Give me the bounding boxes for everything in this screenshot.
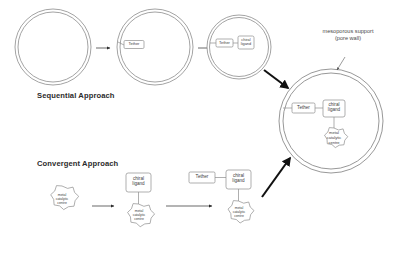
sequential-approach-heading: Sequential Approach [37,92,115,100]
product-ligand-label: chiral ligand [323,102,345,113]
convergent-step3-metal-label: metal catalytic centre [228,206,250,219]
convergent-step1-metal-label: metal catalytic centre [51,193,73,206]
metal-label-line3: centre [228,214,250,218]
sequential-step3-pore [207,15,271,79]
ligand-label-line2: ligand [226,178,251,183]
sequential-step3-ligand-label: chiral ligand [238,38,254,47]
metal-label-line3: centre [51,201,73,205]
product-metal-centre-label: metal catalytic centre [323,131,345,145]
sequential-step2-tether-label: Tether [124,42,144,46]
convergent-step3-tether-label: Tether [189,174,215,179]
ligand-label-line2: ligand [238,42,254,46]
ligand-label-line2: ligand [323,107,345,112]
diagram-canvas: Sequential Approach Convergent Approach … [0,0,405,253]
sequential-step3-tether-label: Tether [216,41,233,45]
sequential-to-product-arrow [264,70,288,88]
convergent-step3-ligand-label: chiral ligand [226,173,251,184]
product-pore [279,69,383,173]
product-tether-label: Tether [292,105,315,110]
convergent-to-product-arrow [262,158,290,197]
convergent-step2-metal-label: metal catalytic centre [128,209,150,222]
convergent-approach-heading: Convergent Approach [37,160,118,168]
convergent-step2-ligand-label: chiral ligand [126,176,151,187]
support-leader-line [337,57,345,70]
mesoporous-support-annotation: mesoporous support (pore wall) [302,28,394,42]
metal-label-line3: centre [323,141,345,146]
sequential-step1-pore [15,9,91,85]
ligand-label-line2: ligand [126,181,151,186]
support-annotation-line1: mesoporous support [302,28,394,35]
support-annotation-line2: (pore wall) [302,35,394,42]
sequential-step2-pore [117,9,193,85]
metal-label-line3: centre [128,217,150,221]
